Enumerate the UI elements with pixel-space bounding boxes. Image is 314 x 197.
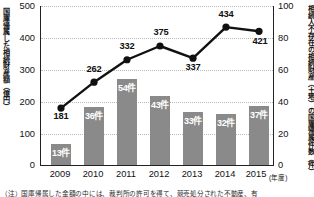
point-label-2011: 332	[120, 41, 135, 51]
line-marker-2013	[189, 55, 196, 62]
point-label-2014: 434	[219, 9, 234, 19]
x-label-2012: 2012	[149, 169, 170, 179]
left-axis-title: 国庫帰属した相続財産額（億円）	[1, 8, 9, 168]
left-tick-300: 300	[11, 66, 35, 75]
point-label-2013: 337	[186, 62, 201, 72]
left-tick-0: 0	[11, 161, 35, 170]
line-marker-2012	[156, 42, 163, 49]
right-tick-80: 80	[278, 34, 302, 43]
x-label-2009: 2009	[50, 169, 71, 179]
right-tick-20: 20	[278, 130, 302, 139]
x-label-2011: 2011	[116, 169, 136, 179]
right-tick-40: 40	[278, 98, 302, 107]
line-marker-2010	[90, 79, 97, 86]
right-axis-title: 相続人不存在の相続財産（土地）の国庫帰属件数（件）	[306, 5, 314, 183]
left-tick-500: 500	[11, 2, 35, 11]
right-tick-60: 60	[278, 66, 302, 75]
x-axis-unit: (年度)	[269, 172, 287, 182]
footnote: （注）国庫帰属した金額の中には、裁判所の許可を得て、競売処分された不動産、有	[1, 190, 313, 197]
line-marker-2014	[222, 24, 229, 31]
line-marker-2015	[255, 28, 262, 35]
left-tick-400: 400	[11, 34, 35, 43]
plot-area: 13件 36件 54件 43件 33件 32件 37件	[40, 6, 274, 166]
point-label-2012: 375	[154, 27, 169, 37]
point-label-2010: 262	[87, 64, 102, 74]
left-tick-200: 200	[11, 98, 35, 107]
x-label-2013: 2013	[182, 169, 203, 179]
chart-figure: 国庫帰属した相続財産額（億円） 相続人不存在の相続財産（土地）の国庫帰属件数（件…	[0, 0, 314, 197]
left-tick-100: 100	[11, 130, 35, 139]
x-label-2014: 2014	[215, 169, 236, 179]
point-label-2015: 421	[253, 36, 268, 46]
x-label-2010: 2010	[83, 169, 104, 179]
line-marker-2011	[123, 56, 130, 63]
right-tick-0: 0	[278, 161, 302, 170]
point-label-2009: 181	[54, 111, 69, 121]
right-tick-100: 100	[278, 2, 302, 11]
x-label-2015: 2015	[246, 169, 267, 179]
